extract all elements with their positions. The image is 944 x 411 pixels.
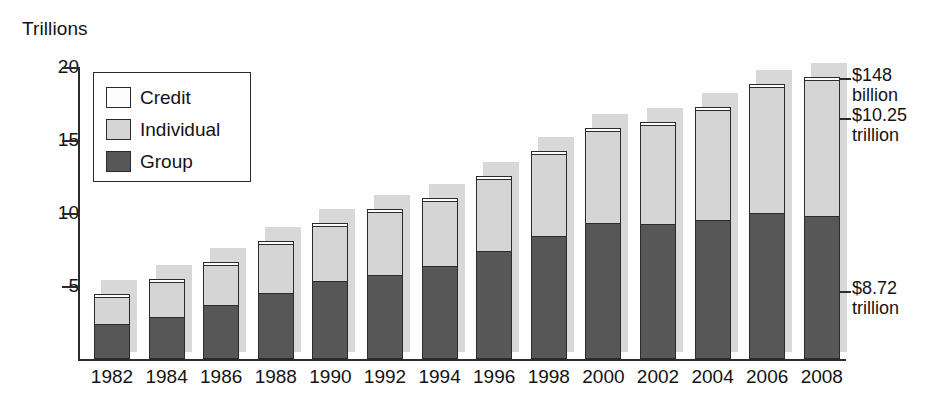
individual-annotation-leader-line [838, 118, 851, 120]
bar-stack-1998[interactable] [531, 151, 567, 359]
segment-group-2002[interactable] [641, 225, 675, 358]
credit-annotation-unit: billion [852, 85, 944, 105]
legend-label: Individual [140, 120, 220, 139]
segment-group-2000[interactable] [586, 224, 620, 358]
legend-item-credit[interactable]: Credit [106, 82, 250, 113]
y-tick-mark [62, 67, 79, 69]
group-annotation-unit: trillion [852, 298, 944, 318]
bar-stack-2004[interactable] [695, 107, 731, 359]
x-label-2000: 2000 [576, 366, 630, 388]
bar-2000[interactable] [585, 128, 631, 359]
x-label-2008: 2008 [795, 366, 849, 388]
bar-stack-1986[interactable] [203, 262, 239, 359]
segment-group-2006[interactable] [750, 214, 784, 358]
individual-annotation-value: $10.25 [852, 105, 944, 125]
y-tick-mark [62, 286, 79, 288]
segment-individual-1992[interactable] [368, 213, 402, 276]
bar-stack-2002[interactable] [640, 122, 676, 359]
bar-1992[interactable] [367, 209, 413, 359]
individual-annotation-unit: trillion [852, 125, 944, 145]
segment-individual-1996[interactable] [477, 180, 511, 252]
bar-stack-1984[interactable] [149, 279, 185, 359]
x-label-1986: 1986 [194, 366, 248, 388]
x-label-1982: 1982 [85, 366, 139, 388]
segment-individual-2006[interactable] [750, 88, 784, 214]
x-label-1994: 1994 [413, 366, 467, 388]
segment-individual-1998[interactable] [532, 155, 566, 237]
bar-stack-1988[interactable] [258, 241, 294, 359]
credit-annotation-value: $148 [852, 65, 944, 85]
x-label-1992: 1992 [358, 366, 412, 388]
group-annotation-leader-line [838, 291, 851, 293]
legend-swatch-group-icon [106, 151, 131, 172]
individual-annotation: $10.25trillion [852, 105, 944, 145]
x-label-2006: 2006 [740, 366, 794, 388]
segment-group-1996[interactable] [477, 252, 511, 358]
segment-individual-1988[interactable] [259, 245, 293, 293]
x-label-1990: 1990 [303, 366, 357, 388]
segment-individual-1994[interactable] [423, 202, 457, 267]
segment-individual-1990[interactable] [313, 227, 347, 282]
segment-individual-2004[interactable] [696, 111, 730, 221]
x-label-1998: 1998 [522, 366, 576, 388]
credit-annotation-leader-line [838, 78, 851, 80]
bar-stack-1994[interactable] [422, 198, 458, 359]
legend-label: Group [140, 152, 193, 171]
segment-group-1984[interactable] [150, 318, 184, 358]
x-label-2004: 2004 [686, 366, 740, 388]
y-tick-mark [62, 140, 79, 142]
segment-group-1992[interactable] [368, 276, 402, 358]
segment-group-2004[interactable] [696, 221, 730, 358]
bar-1994[interactable] [422, 198, 468, 359]
segment-group-1998[interactable] [532, 237, 566, 358]
y-tick-mark [62, 213, 79, 215]
bar-stack-2006[interactable] [749, 84, 785, 359]
bar-2006[interactable] [749, 84, 795, 359]
x-label-2002: 2002 [631, 366, 685, 388]
segment-group-1982[interactable] [95, 325, 129, 358]
bar-1986[interactable] [203, 262, 249, 359]
segment-group-1988[interactable] [259, 294, 293, 358]
y-tick-15: 15 [0, 140, 79, 142]
legend-item-group[interactable]: Group [106, 146, 250, 177]
segment-group-1994[interactable] [423, 267, 457, 358]
bar-1982[interactable] [94, 294, 140, 359]
bar-stack-2008[interactable] [804, 77, 840, 360]
segment-group-2008[interactable] [805, 217, 839, 358]
chart-canvas: Trillions 2015105 1982198419861988199019… [0, 0, 944, 411]
legend-item-individual[interactable]: Individual [106, 114, 250, 145]
x-label-1988: 1988 [249, 366, 303, 388]
bar-1998[interactable] [531, 151, 577, 359]
segment-group-1990[interactable] [313, 282, 347, 358]
bar-stack-1982[interactable] [94, 294, 130, 359]
bar-1988[interactable] [258, 241, 304, 359]
bar-1984[interactable] [149, 279, 195, 359]
segment-individual-2008[interactable] [805, 81, 839, 217]
group-annotation: $8.72trillion [852, 278, 944, 318]
bar-2002[interactable] [640, 122, 686, 359]
legend-label: Credit [140, 88, 191, 107]
group-annotation-value: $8.72 [852, 278, 944, 298]
plot-area: 2015105 19821984198619881990199219941996… [0, 0, 944, 411]
segment-group-1986[interactable] [204, 306, 238, 358]
x-label-1984: 1984 [140, 366, 194, 388]
x-label-1996: 1996 [467, 366, 521, 388]
bar-2004[interactable] [695, 107, 741, 359]
legend-swatch-credit-icon [106, 87, 131, 108]
y-tick-10: 10 [0, 213, 79, 215]
credit-annotation: $148billion [852, 65, 944, 105]
y-tick-5: 5 [0, 286, 79, 288]
legend-swatch-individual-icon [106, 119, 131, 140]
bar-stack-1990[interactable] [312, 223, 348, 359]
segment-individual-1982[interactable] [95, 298, 129, 325]
segment-individual-2002[interactable] [641, 126, 675, 225]
segment-individual-1984[interactable] [150, 283, 184, 318]
bar-stack-1996[interactable] [476, 176, 512, 359]
x-axis-line [78, 359, 846, 361]
bar-1996[interactable] [476, 176, 522, 359]
segment-individual-1986[interactable] [204, 266, 238, 306]
bar-stack-1992[interactable] [367, 209, 403, 359]
bar-1990[interactable] [312, 223, 358, 359]
segment-individual-2000[interactable] [586, 132, 620, 224]
bar-stack-2000[interactable] [585, 128, 621, 359]
